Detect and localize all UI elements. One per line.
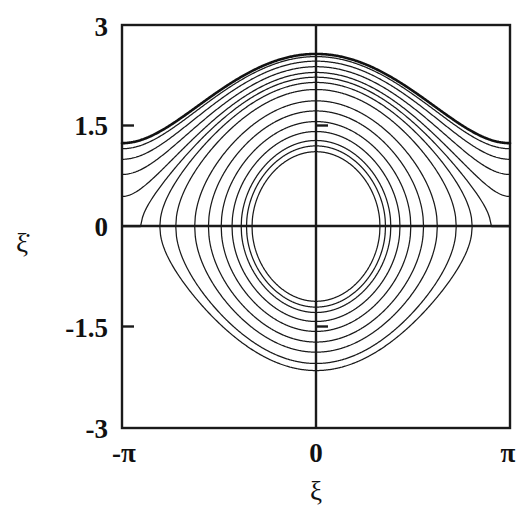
phase-portrait-svg: 3 1.5 0 -1.5 -3 -π 0 π ξ ξ̇ xyxy=(0,0,530,507)
y-tick-label-upper-mid: 1.5 xyxy=(74,111,108,141)
x-axis-title: ξ xyxy=(310,476,322,506)
x-tick-label-center: 0 xyxy=(309,438,323,468)
x-tick-label-left: -π xyxy=(112,438,136,468)
y-tick-label-lower-mid: -1.5 xyxy=(65,313,108,343)
phase-portrait-figure: 3 1.5 0 -1.5 -3 -π 0 π ξ ξ̇ xyxy=(0,0,530,507)
y-tick-label-top: 3 xyxy=(95,12,109,42)
y-tick-label-zero: 0 xyxy=(95,212,109,242)
y-axis-title: ξ̇ xyxy=(16,228,30,258)
x-tick-label-right: π xyxy=(501,438,516,468)
y-tick-label-bottom: -3 xyxy=(86,414,109,444)
